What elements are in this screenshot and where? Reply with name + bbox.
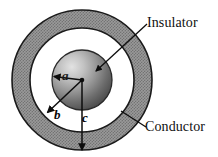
spherical-capacitor-figure: Insulator Conductor a b c <box>0 0 218 157</box>
sphere-center-dot <box>80 78 85 83</box>
radius-label-b: b <box>54 107 61 123</box>
conductor-label: Conductor <box>145 119 205 135</box>
radius-label-c: c <box>82 110 88 126</box>
insulator-label: Insulator <box>147 15 198 31</box>
radius-label-a: a <box>62 68 69 84</box>
